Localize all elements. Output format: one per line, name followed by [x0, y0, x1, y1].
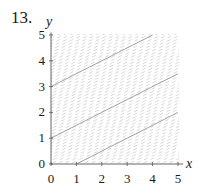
y-tick-label: 3 — [39, 79, 46, 94]
x-tick-label: 0 — [48, 171, 55, 186]
x-tick-label: 1 — [73, 171, 80, 186]
x-axis-label: x — [185, 156, 193, 171]
y-tick-label: 0 — [39, 156, 46, 171]
solution-curves — [51, 35, 178, 164]
x-tick-label: 3 — [124, 171, 131, 186]
y-tick-label: 2 — [39, 104, 46, 119]
slope-field-plot: 012345012345 x y — [0, 0, 202, 194]
x-tick-label: 4 — [149, 171, 156, 186]
solution-curve — [51, 35, 153, 87]
direction-field — [47, 33, 184, 166]
y-tick-label: 1 — [39, 130, 46, 145]
solution-curve — [76, 112, 178, 164]
y-tick-label: 5 — [39, 27, 46, 42]
x-tick-label: 5 — [175, 171, 182, 186]
x-tick-label: 2 — [99, 171, 106, 186]
y-axis-label: y — [44, 14, 53, 29]
solution-curve — [51, 74, 178, 139]
y-tick-label: 4 — [39, 53, 46, 68]
